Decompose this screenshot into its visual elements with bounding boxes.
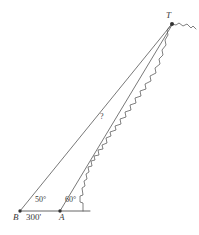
ridge-right-of-peak-path — [172, 23, 196, 29]
point-label-t: T — [166, 11, 171, 20]
mountain-profile-path — [80, 25, 171, 211]
baseline-distance-label: 300' — [26, 213, 41, 222]
line-of-sight-a-to-t — [60, 25, 172, 211]
angle-label-at-b: 50° — [35, 196, 46, 204]
unknown-distance-label: ? — [100, 113, 104, 121]
diagram-canvas: B 300' A T ? 50° 60° — [0, 0, 199, 235]
point-label-a: A — [59, 213, 65, 222]
line-of-sight-b-to-t — [20, 24, 172, 211]
point-marker-t — [170, 22, 174, 26]
point-label-b: B — [13, 213, 19, 222]
angle-label-at-a: 60° — [65, 196, 76, 204]
